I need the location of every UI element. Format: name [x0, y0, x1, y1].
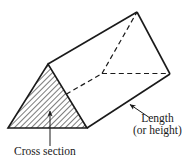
- prism-figure: Length (or height) Cross section: [0, 0, 185, 168]
- hidden-edge-back-left: [102, 12, 137, 74]
- cross-section-face: [8, 64, 87, 128]
- length-label-line2: (or height): [133, 124, 182, 136]
- prism-svg: [0, 0, 185, 168]
- edge-top-ridge: [48, 12, 137, 64]
- length-label-line1: Length: [133, 112, 182, 124]
- length-label: Length (or height): [133, 112, 182, 137]
- cross-section-label: Cross section: [14, 145, 76, 157]
- edge-back-right: [137, 12, 170, 74]
